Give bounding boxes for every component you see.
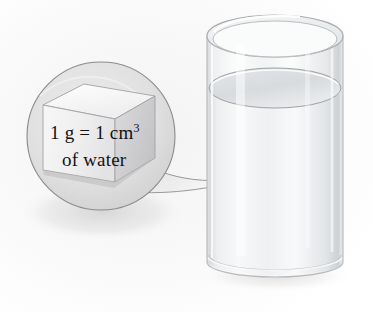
glass-specular-band-secondary [305, 50, 310, 248]
water-glass-cylinder [207, 15, 343, 277]
callout-line-1: 1 g = 1 cm3 [50, 121, 140, 143]
illustration-canvas: 1 g = 1 cm3 of water [0, 0, 373, 312]
callout-line-2: of water [62, 149, 127, 170]
glass-rim-inner [213, 21, 337, 57]
water-surface [209, 68, 341, 108]
glass-specular-band [236, 44, 245, 256]
water-column [209, 88, 341, 275]
figure-root: 1 g = 1 cm3 of water [0, 0, 373, 312]
cube-front-face [43, 105, 115, 182]
